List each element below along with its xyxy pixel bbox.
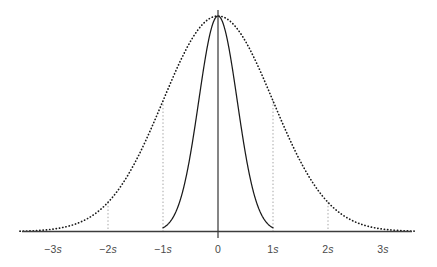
x-tick-label-0: 0: [215, 244, 221, 255]
tick-unit: s: [166, 243, 171, 255]
tick-number: −3: [44, 243, 56, 255]
tick-unit: s: [56, 243, 61, 255]
x-tick-label-2s: 2s: [322, 244, 334, 255]
x-tick-label-minus1s: −1s: [154, 244, 172, 255]
tick-unit: s: [328, 243, 333, 255]
x-tick-label-3s: 3s: [377, 244, 389, 255]
tick-number: −2: [99, 243, 111, 255]
normal-distribution-chart: −3s−2s−1s01s2s3s: [0, 0, 437, 267]
x-tick-label-minus3s: −3s: [44, 244, 62, 255]
tick-unit: s: [273, 243, 278, 255]
tick-number: 0: [215, 243, 221, 255]
tick-unit: s: [111, 243, 116, 255]
x-tick-label-1s: 1s: [267, 244, 279, 255]
chart-canvas: [0, 0, 437, 267]
tick-number: −1: [154, 243, 166, 255]
x-tick-label-minus2s: −2s: [99, 244, 117, 255]
tick-unit: s: [383, 243, 388, 255]
